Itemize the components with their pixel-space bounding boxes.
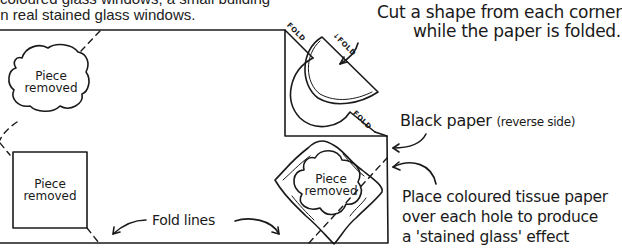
arrow-black-paper: [393, 134, 426, 148]
label-tissue-line2: over each hole to produce: [402, 210, 598, 226]
label-cut-shape-line2: while the paper is folded.: [413, 23, 621, 40]
label-tissue-line3: a 'stained glass' effect: [402, 230, 569, 246]
intro-line-2: in real stained glass windows.: [0, 7, 195, 22]
piece-label-line2: removed: [20, 190, 80, 202]
label-fold-lines: Fold lines: [152, 213, 215, 227]
folded-semicircle-inner: [308, 41, 372, 100]
label-cut-shape-line1: Cut a shape from each corner: [377, 4, 622, 21]
piece-removed-square: Piece removed: [20, 178, 80, 202]
black-paper-note: (reverse side): [496, 115, 575, 129]
piece-removed-cloud: Piece removed: [22, 70, 80, 94]
arrow-tissue: [393, 163, 436, 184]
label-tissue-line1: Place coloured tissue paper: [402, 190, 608, 206]
black-paper-text: Black paper: [400, 111, 492, 130]
piece-label-line2: removed: [301, 185, 361, 197]
label-black-paper: Black paper (reverse side): [400, 113, 575, 129]
piece-label-line2: removed: [22, 82, 80, 94]
piece-removed-quatrefoil: Piece removed: [301, 173, 361, 197]
